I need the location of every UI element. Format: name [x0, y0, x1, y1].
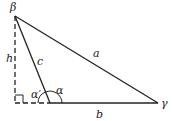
angle-label-alpha-prime: α′ [31, 88, 41, 101]
vertex-label-gamma: γ [161, 97, 168, 110]
altitude-label-h: h [6, 52, 13, 65]
right-angle-marker [15, 95, 23, 103]
side-label-b: b [96, 108, 103, 121]
triangle-diagram: β γ h c a b α′ α [0, 0, 177, 121]
angle-label-alpha: α [56, 84, 64, 97]
side-label-a: a [93, 47, 100, 60]
side-label-c: c [37, 55, 43, 68]
vertex-label-beta: β [9, 1, 16, 14]
